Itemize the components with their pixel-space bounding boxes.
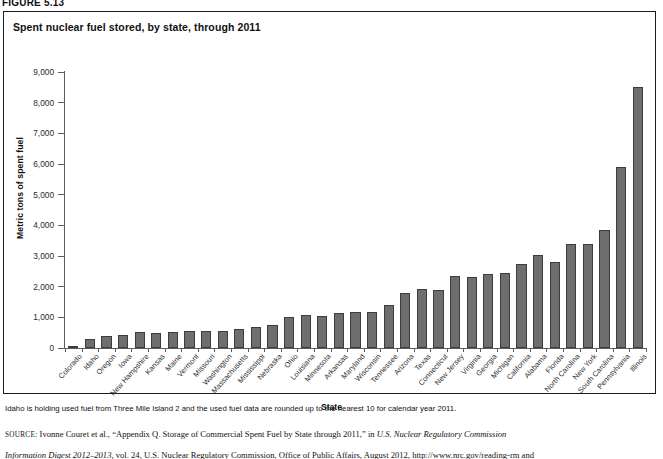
source-note-line2: Information Digest 2012–2013, vol. 24, U… (5, 449, 655, 459)
source-prefix: SOURCE: (5, 431, 37, 439)
chart-title: Spent nuclear fuel stored, by state, thr… (13, 21, 261, 33)
figure-label: FIGURE 5.13 (2, 0, 64, 8)
source-italic-2: Information Digest 2012–2013, (5, 450, 114, 459)
source-italic-1: U.S. Nuclear Regulatory Commission (377, 429, 507, 439)
source-text-1: Ivonne Couret et al., “Appendix Q. Stora… (37, 429, 376, 439)
source-text-2: vol. 24, U.S. Nuclear Regulatory Commiss… (114, 450, 534, 459)
chart-footnote: Idaho is holding used fuel from Three Mi… (5, 404, 655, 415)
figure-page: FIGURE 5.13 Spent nuclear fuel stored, b… (0, 0, 663, 459)
source-note: SOURCE: Ivonne Couret et al., “Appendix … (5, 428, 655, 440)
figure-border (3, 11, 656, 394)
